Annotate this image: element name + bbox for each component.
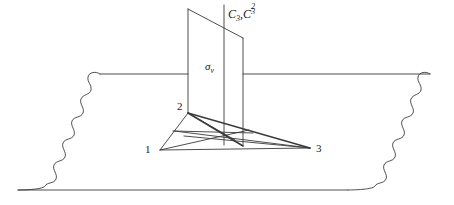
rotation-axis-second-c-symbol: C: [243, 7, 251, 21]
symmetry-diagram-figure: 1 2 3 C3,C23 σv: [0, 0, 454, 205]
mirror-plane-label: σv: [205, 61, 214, 75]
vertex-label-2: 2: [177, 101, 183, 112]
ground-plane-right-wavy-edge: [348, 72, 430, 190]
mirror-plane-vertical-subscript: v: [210, 66, 213, 75]
rotation-axis-label: C3,C23: [228, 6, 257, 24]
rotation-axis-second-order-subscript: 3: [251, 8, 255, 16]
vertex-label-1: 1: [145, 144, 151, 155]
vertex-label-3: 3: [316, 143, 322, 154]
triangle-edge-1-3: [160, 148, 310, 150]
rotation-axis-c-symbol: C: [228, 7, 236, 21]
triangle-edge-2-3: [188, 113, 310, 148]
rotation-axis-second-indices: 23: [251, 6, 257, 18]
diagram-canvas: [0, 0, 454, 205]
ground-plane-left-wavy-edge: [18, 72, 100, 190]
